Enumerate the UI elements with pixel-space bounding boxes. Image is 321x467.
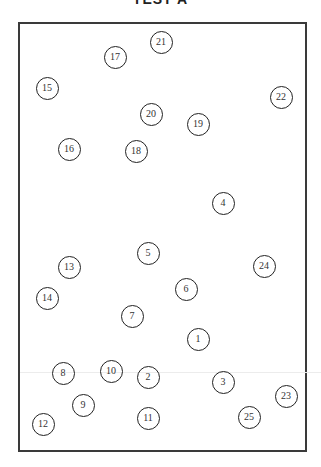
circle-label: 3 [221, 377, 226, 387]
circle-node-13[interactable]: 13 [58, 256, 81, 279]
circle-label: 8 [61, 368, 66, 378]
circle-label: 10 [106, 366, 116, 376]
circle-node-12[interactable]: 12 [32, 413, 55, 436]
circle-node-18[interactable]: 18 [125, 140, 148, 163]
page-title: TEST A [0, 0, 321, 7]
header-clip: TEST A [0, 0, 321, 7]
circle-label: 18 [131, 146, 141, 156]
circle-label: 14 [42, 293, 52, 303]
circle-node-17[interactable]: 17 [104, 46, 127, 69]
circle-node-22[interactable]: 22 [270, 86, 293, 109]
circle-label: 6 [184, 284, 189, 294]
circle-label: 1 [196, 334, 201, 344]
circle-label: 22 [276, 92, 286, 102]
circle-node-5[interactable]: 5 [137, 242, 160, 265]
circle-label: 24 [259, 261, 269, 271]
circle-label: 5 [146, 248, 151, 258]
circle-label: 11 [143, 413, 153, 423]
circle-label: 16 [64, 144, 74, 154]
circle-node-2[interactable]: 2 [137, 366, 160, 389]
circle-label: 13 [64, 262, 74, 272]
circle-node-6[interactable]: 6 [175, 278, 198, 301]
circle-node-14[interactable]: 14 [36, 287, 59, 310]
circle-node-23[interactable]: 23 [275, 385, 298, 408]
circle-node-4[interactable]: 4 [212, 192, 235, 215]
circle-label: 21 [156, 37, 166, 47]
circle-node-3[interactable]: 3 [212, 371, 235, 394]
circle-label: 17 [110, 52, 120, 62]
circle-label: 23 [281, 391, 291, 401]
circle-node-8[interactable]: 8 [52, 362, 75, 385]
circle-node-15[interactable]: 15 [36, 77, 59, 100]
circle-node-10[interactable]: 10 [100, 360, 123, 383]
circle-label: 9 [81, 400, 86, 410]
circle-node-11[interactable]: 11 [137, 407, 160, 430]
circle-label: 15 [42, 83, 52, 93]
circle-label: 7 [130, 311, 135, 321]
circle-label: 19 [193, 119, 203, 129]
test-frame [18, 22, 307, 452]
circle-label: 25 [244, 412, 254, 422]
circle-label: 4 [221, 198, 226, 208]
circle-node-9[interactable]: 9 [72, 394, 95, 417]
circle-node-25[interactable]: 25 [238, 406, 261, 429]
circle-node-16[interactable]: 16 [58, 138, 81, 161]
circle-node-21[interactable]: 21 [150, 31, 173, 54]
circle-label: 12 [38, 419, 48, 429]
circle-node-24[interactable]: 24 [253, 255, 276, 278]
circle-node-20[interactable]: 20 [140, 103, 163, 126]
circle-node-1[interactable]: 1 [187, 328, 210, 351]
circle-label: 2 [146, 372, 151, 382]
circle-label: 20 [146, 109, 156, 119]
circle-node-19[interactable]: 19 [187, 113, 210, 136]
circle-node-7[interactable]: 7 [121, 305, 144, 328]
